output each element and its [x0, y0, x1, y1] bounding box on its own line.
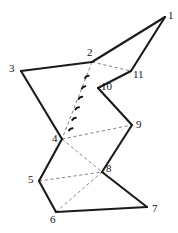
solid-edge-10-9 — [98, 88, 132, 125]
vertex-label-5: 5 — [28, 174, 34, 185]
vertex-label-7: 7 — [152, 203, 158, 214]
angle-tick-3 — [79, 97, 83, 99]
solid-edge-2-1 — [92, 17, 165, 62]
solid-edge-7-6 — [56, 207, 147, 212]
dashed-edge-4-9 — [62, 125, 132, 139]
vertex-label-1: 1 — [168, 10, 174, 21]
vertex-label-8: 8 — [106, 163, 112, 174]
vertex-label-10: 10 — [101, 81, 112, 92]
vertex-label-11: 11 — [133, 69, 144, 80]
vertex-label-9: 9 — [136, 119, 142, 130]
geometry-figure: 1 2 3 4 5 6 7 8 9 10 11 — [0, 0, 178, 233]
solid-edge-1-11 — [131, 17, 165, 71]
angle-tick-2 — [82, 86, 86, 88]
polygon-diagram-canvas — [0, 0, 178, 233]
solid-edge-6-5 — [39, 181, 56, 212]
vertex-label-3: 3 — [9, 63, 15, 74]
angle-tick-group — [69, 76, 89, 131]
vertex-label-6: 6 — [50, 214, 56, 225]
solid-edge-4-3 — [21, 71, 62, 139]
dashed-edge-2-11 — [92, 62, 131, 71]
angle-tick-5 — [72, 118, 76, 120]
vertex-label-2: 2 — [87, 47, 93, 58]
vertex-label-4: 4 — [52, 133, 58, 144]
dashed-edge-5-8 — [39, 172, 102, 181]
angle-tick-6 — [69, 128, 73, 130]
solid-edge-3-2 — [21, 62, 92, 71]
solid-edge-group — [21, 17, 165, 212]
solid-edge-5-4 — [39, 139, 62, 181]
solid-edge-8-7 — [102, 172, 147, 207]
dashed-edge-4-8 — [62, 139, 102, 172]
angle-tick-1 — [85, 76, 89, 78]
angle-tick-4 — [75, 107, 79, 109]
dashed-edge-2-4 — [62, 62, 92, 139]
